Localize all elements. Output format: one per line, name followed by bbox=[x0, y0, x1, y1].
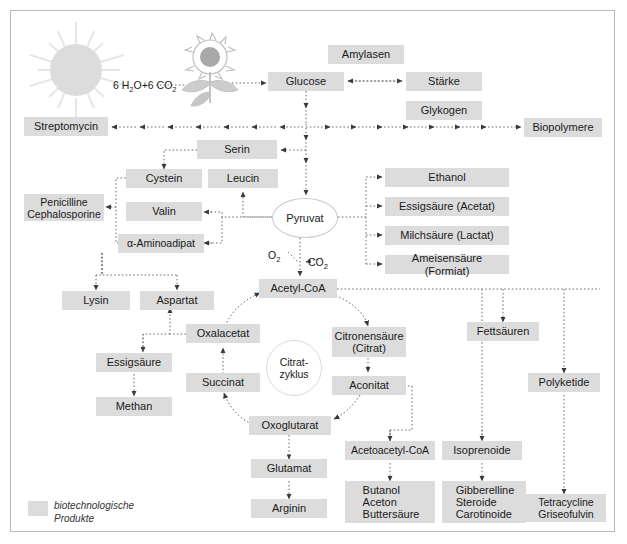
node-aconitat[interactable]: Aconitat bbox=[332, 376, 406, 395]
node-butanol-aceton-buttersaeure[interactable]: Butanol Aceton Buttersäure bbox=[345, 481, 435, 523]
node-tetracycline-griseofulvin[interactable]: Tetracycline Griseofulvin bbox=[526, 494, 606, 522]
diagram-canvas: 6 H2O+6 CO2 O2 CO2 Glucose Amylasen Stär… bbox=[0, 0, 627, 544]
node-acetoacetyl-coa[interactable]: Acetoacetyl-CoA bbox=[345, 441, 435, 460]
node-methan[interactable]: Methan bbox=[96, 397, 172, 416]
node-serin[interactable]: Serin bbox=[197, 140, 277, 159]
node-streptomycin[interactable]: Streptomycin bbox=[24, 117, 108, 136]
node-polyketide[interactable]: Polyketide bbox=[528, 373, 600, 392]
node-valin[interactable]: Valin bbox=[126, 202, 202, 221]
node-oxoglutarat[interactable]: Oxoglutarat bbox=[249, 416, 331, 435]
node-isoprenoide[interactable]: Isoprenoide bbox=[442, 441, 522, 460]
node-citronensaeure-citrat[interactable]: Citronensäure (Citrat) bbox=[332, 327, 406, 357]
co2-label: CO2 bbox=[308, 256, 328, 271]
node-staerke[interactable]: Stärke bbox=[406, 72, 482, 91]
node-succinat[interactable]: Succinat bbox=[186, 373, 260, 392]
node-ethanol[interactable]: Ethanol bbox=[385, 168, 509, 187]
node-biopolymere[interactable]: Biopolymere bbox=[524, 118, 602, 137]
node-milchsaeure-lactat[interactable]: Milchsäure (Lactat) bbox=[385, 226, 509, 245]
node-ameisensaeure-formiat[interactable]: Ameisensäure (Formiat) bbox=[385, 255, 509, 274]
node-cystein[interactable]: Cystein bbox=[126, 169, 202, 188]
node-penicilline-cephalosporine[interactable]: Penicilline Cephalosporine bbox=[24, 194, 104, 221]
node-glucose[interactable]: Glucose bbox=[268, 72, 344, 91]
legend-swatch bbox=[28, 501, 48, 516]
node-glutamat[interactable]: Glutamat bbox=[251, 459, 327, 478]
o2-label: O2 bbox=[268, 249, 280, 264]
node-glykogen[interactable]: Glykogen bbox=[406, 101, 482, 120]
node-lysin[interactable]: Lysin bbox=[62, 291, 130, 310]
photosynthesis-equation: 6 H2O+6 CO2 bbox=[113, 79, 177, 94]
node-aspartat[interactable]: Aspartat bbox=[140, 291, 214, 310]
node-oxalacetat[interactable]: Oxalacetat bbox=[186, 324, 260, 343]
node-fettsaeuren[interactable]: Fettsäuren bbox=[467, 322, 539, 341]
node-citrat-zyklus: Citrat- zyklus bbox=[266, 340, 322, 396]
node-essigsaeure-acetat[interactable]: Essigsäure (Acetat) bbox=[385, 197, 509, 216]
node-amylasen[interactable]: Amylasen bbox=[328, 45, 404, 64]
legend-label: biotechnologische Produkte bbox=[54, 500, 134, 525]
node-alpha-aminoadipat[interactable]: α-Aminoadipat bbox=[118, 234, 204, 253]
node-arginin[interactable]: Arginin bbox=[251, 499, 327, 518]
node-gibberelline-steroide-carotinoide[interactable]: Gibberelline Steroide Carotinoide bbox=[442, 481, 526, 523]
node-acetyl-coa[interactable]: Acetyl-CoA bbox=[259, 279, 337, 298]
node-leucin[interactable]: Leucin bbox=[208, 169, 278, 188]
node-pyruvat[interactable]: Pyruvat bbox=[272, 198, 338, 238]
node-essigsaeure[interactable]: Essigsäure bbox=[96, 353, 172, 372]
